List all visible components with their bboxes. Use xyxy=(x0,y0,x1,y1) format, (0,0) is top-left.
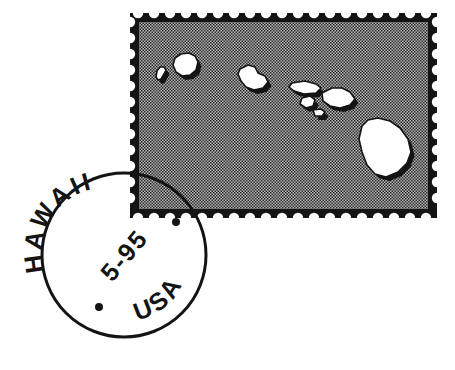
stamp-halftone-interior xyxy=(139,22,428,209)
postmark-dot-bottom-left xyxy=(95,303,103,311)
island-kahoolawe xyxy=(313,109,325,116)
stamp-scene: HAWAII 5-95 USA xyxy=(0,0,455,370)
scene-canvas: HAWAII 5-95 USA xyxy=(0,0,455,370)
postmark-dot-top-right xyxy=(172,218,180,226)
island-lanai xyxy=(300,96,315,108)
hawaii-islands-stamp[interactable] xyxy=(130,13,437,218)
